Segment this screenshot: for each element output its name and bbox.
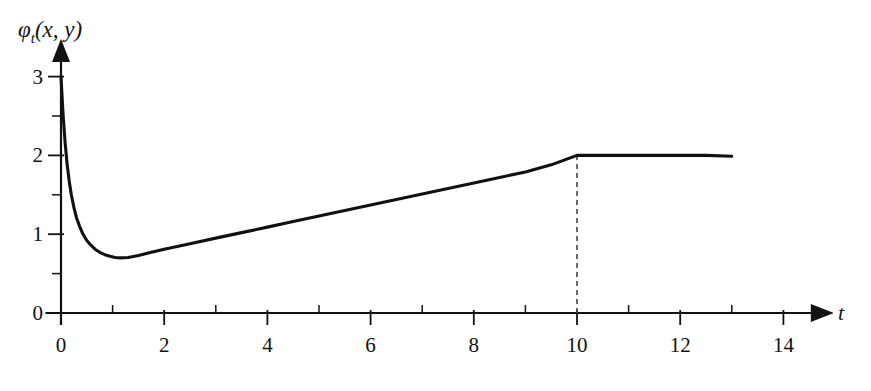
axes-layer	[46, 39, 834, 325]
y-axis-arrowhead	[52, 39, 70, 62]
plot-area	[0, 0, 871, 391]
x-tick-label: 2	[159, 335, 170, 356]
chart-figure: φt(x, y) t 02468101214 0123	[0, 0, 871, 391]
series-layer	[61, 77, 732, 258]
y-tick-label: 2	[19, 145, 43, 166]
y-tick-label: 1	[19, 224, 43, 245]
x-tick-label: 14	[773, 335, 794, 356]
x-tick-label: 6	[365, 335, 376, 356]
x-tick-label: 4	[262, 335, 273, 356]
x-axis-arrowhead	[811, 304, 834, 322]
x-tick-label: 10	[567, 335, 588, 356]
data-curve	[61, 77, 732, 258]
x-tick-label: 8	[469, 335, 480, 356]
y-tick-label: 3	[19, 66, 43, 87]
x-tick-label: 0	[56, 335, 67, 356]
y-tick-label: 0	[19, 303, 43, 324]
x-tick-label: 12	[670, 335, 691, 356]
